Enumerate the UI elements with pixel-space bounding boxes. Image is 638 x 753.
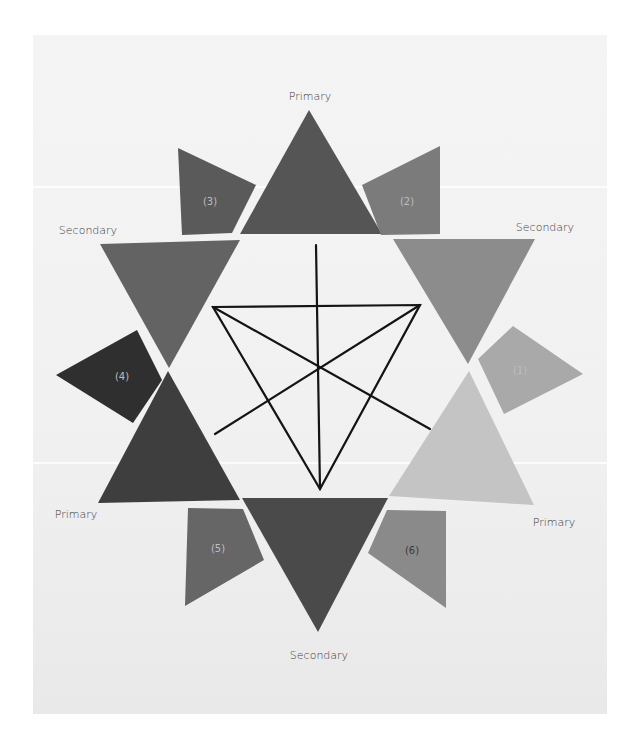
tertiary-piece-1 (478, 326, 583, 414)
tertiary-number-4: (4) (115, 371, 129, 382)
tertiary-number-5: (5) (211, 543, 225, 554)
label-primary-bottom-left: Primary (55, 508, 98, 521)
tertiary-piece-3 (178, 148, 256, 235)
tertiary-number-6: (6) (405, 545, 419, 556)
tertiary-number-2: (2) (400, 196, 414, 207)
primary-triangle-top (240, 110, 382, 234)
label-secondary-bottom: Secondary (290, 649, 348, 662)
tertiary-piece-4 (56, 330, 162, 423)
color-wheel-art: (1) (2) (3) (4) (5) (6) Primary Secondar… (0, 0, 638, 753)
tertiary-piece-6 (368, 510, 446, 608)
label-primary-top: Primary (289, 90, 332, 103)
center-ink-diagram (213, 245, 430, 489)
label-secondary-top-left: Secondary (59, 224, 117, 237)
label-secondary-top-right: Secondary (516, 221, 574, 234)
label-primary-bottom-right: Primary (533, 516, 576, 529)
secondary-triangle-bottom (242, 498, 388, 632)
tertiary-number-3: (3) (203, 196, 217, 207)
tertiary-number-1: (1) (513, 365, 527, 376)
tertiary-piece-5 (185, 508, 264, 606)
